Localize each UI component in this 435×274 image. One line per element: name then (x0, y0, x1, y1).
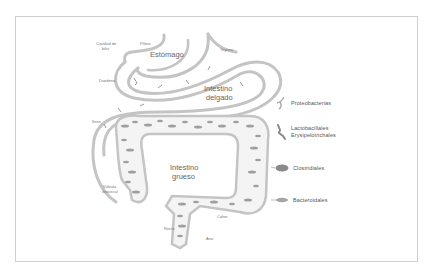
legend-label: Bacteroidales (293, 197, 328, 204)
organ-label-large-intestine-1: Intestino (170, 163, 198, 172)
label-jejunum: Yeyuno (220, 47, 233, 52)
bacteroidales-icon (271, 196, 289, 204)
label-ileum: Íleon (92, 119, 101, 124)
label-pylorus: Píloro (140, 41, 150, 46)
label-ileocecal-2: ileocecal (102, 189, 118, 194)
legend-label: Lactobacillales Erysipelotrichales (291, 125, 336, 139)
organ-label-large-intestine-2: grueso (172, 172, 195, 181)
digestive-tract-illustration (0, 0, 435, 274)
large-intestine (116, 116, 268, 249)
label-colon: Colon (217, 214, 227, 219)
legend-item-clostridiales: Clostridiales (271, 163, 324, 173)
legend-item-lactobacillales: Lactobacillales Erysipelotrichales (275, 124, 336, 140)
label-rectum: Recto (164, 226, 174, 231)
legend-label: Clostridiales (293, 165, 324, 172)
label-gallbladder-2: bilis (102, 46, 109, 51)
legend-label: Proteobacterias (291, 100, 331, 107)
label-anus: Ano (206, 236, 213, 241)
label-duodenum: Duodeno (99, 78, 115, 83)
legend-label-line-1: Lactobacillales (291, 125, 329, 131)
proteobacteria-icon (275, 96, 287, 110)
clostridiales-icon (271, 163, 289, 173)
organ-label-small-intestine-1: Intestino (204, 84, 232, 93)
lactobacillales-icon (275, 124, 287, 140)
organ-label-stomach: Estómago (150, 50, 184, 59)
legend-label-line-2: Erysipelotrichales (291, 132, 336, 138)
organ-label-small-intestine-2: delgado (206, 93, 233, 102)
legend-item-bacteroidales: Bacteroidales (271, 196, 328, 204)
legend-item-proteobacteria: Proteobacterias (275, 96, 331, 110)
